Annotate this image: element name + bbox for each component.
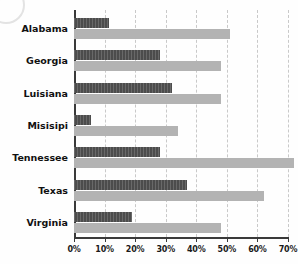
x-axis-tick-label: 10%	[95, 245, 114, 254]
x-axis-tick	[74, 237, 75, 242]
bar-series-light	[74, 126, 178, 136]
x-axis-tick	[257, 237, 258, 242]
category-label: Alabama	[0, 23, 68, 34]
bar-series-dark	[74, 180, 187, 190]
gridline	[166, 10, 168, 237]
x-axis-tick	[288, 237, 289, 242]
corner-watermark-arc-inner	[0, 0, 5, 3]
x-axis-tick-label: 0%	[67, 245, 80, 254]
bar-series-dark	[74, 18, 109, 28]
bar-series-dark	[74, 83, 172, 93]
x-axis-tick-label: 20%	[126, 245, 145, 254]
corner-watermark-arc	[0, 0, 25, 24]
gridline	[135, 10, 137, 237]
gridline	[288, 10, 290, 237]
x-axis-tick-label: 40%	[187, 245, 206, 254]
bar-series-dark	[74, 147, 160, 157]
category-label: Georgia	[0, 55, 68, 66]
x-axis-tick-label: 60%	[248, 245, 267, 254]
bar-series-light	[74, 61, 221, 71]
gridline	[196, 10, 198, 237]
bar-series-light	[74, 223, 221, 233]
x-axis-tick-label: 30%	[156, 245, 175, 254]
category-label: Texas	[0, 185, 68, 196]
bar-series-light	[74, 158, 294, 168]
category-label: Tennessee	[0, 152, 68, 163]
x-axis-line	[74, 237, 288, 239]
bar-series-light	[74, 29, 230, 39]
gridline	[227, 10, 229, 237]
category-label: Luisiana	[0, 88, 68, 99]
bar-series-light	[74, 191, 264, 201]
bar-series-dark	[74, 115, 91, 125]
x-axis-tick-label: 50%	[218, 245, 237, 254]
x-axis-tick	[135, 237, 136, 242]
gridline	[257, 10, 259, 237]
gridline	[105, 10, 107, 237]
bar-series-dark	[74, 50, 160, 60]
x-axis-tick	[227, 237, 228, 242]
category-label: Misisipi	[0, 120, 68, 131]
plot-area	[74, 10, 288, 237]
bar-series-light	[74, 94, 221, 104]
x-axis-tick	[196, 237, 197, 242]
bar-chart: 0%10%20%30%40%50%60%70%AlabamaGeorgiaLui…	[0, 0, 298, 264]
x-axis-tick	[105, 237, 106, 242]
x-axis-tick	[166, 237, 167, 242]
category-label: Virginia	[0, 217, 68, 228]
x-axis-tick-label: 70%	[279, 245, 298, 254]
bar-series-dark	[74, 212, 132, 222]
